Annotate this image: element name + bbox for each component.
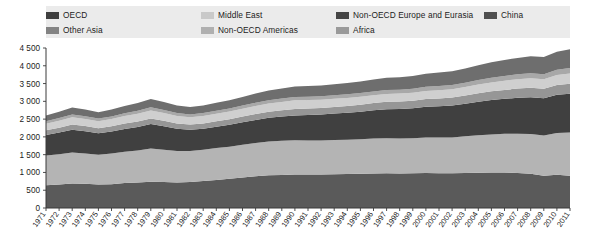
x-tick-label: 2006 xyxy=(489,210,506,229)
x-tick-label: 1978 xyxy=(122,210,139,229)
x-tick-label: 1979 xyxy=(135,210,152,229)
x-tick-label: 1975 xyxy=(83,210,100,229)
legend-item-other-asia[interactable]: Other Asia xyxy=(46,23,103,37)
legend-item-middle-east[interactable]: Middle East xyxy=(201,8,262,22)
legend-item-oecd[interactable]: OECD xyxy=(46,8,87,22)
legend-row-2: Other AsiaNon-OECD AmericasAfrica xyxy=(46,23,570,37)
legend-item-non-oecd-americas[interactable]: Non-OECD Americas xyxy=(201,23,298,37)
x-tick-label: 1988 xyxy=(253,210,270,229)
x-tick-label: 1991 xyxy=(293,210,310,229)
x-tick-label: 1982 xyxy=(175,210,192,229)
x-tick-label: 1984 xyxy=(201,210,218,229)
x-tick-label: 1996 xyxy=(358,210,375,229)
x-tick-label: 1977 xyxy=(109,210,126,229)
x-tick-label: 2010 xyxy=(541,210,558,229)
legend-label: Other Asia xyxy=(63,26,103,35)
x-tick-label: 1998 xyxy=(384,210,401,229)
x-tick-label: 2001 xyxy=(424,210,441,229)
x-tick-label: 1981 xyxy=(162,210,179,229)
legend-swatch-icon xyxy=(46,27,59,34)
x-tick-label: 1993 xyxy=(319,210,336,229)
x-tick-label: 2009 xyxy=(528,210,545,229)
x-tick-label: 1999 xyxy=(397,210,414,229)
x-tick-label: 1990 xyxy=(279,210,296,229)
x-tick-label: 1976 xyxy=(96,210,113,229)
x-tick-label: 1997 xyxy=(371,210,388,229)
legend-label: Non-OECD Americas xyxy=(218,26,298,35)
x-tick-label: 1980 xyxy=(148,210,165,229)
legend-swatch-icon xyxy=(46,12,59,19)
x-tick-label: 1973 xyxy=(57,210,74,229)
x-tick-label: 2004 xyxy=(463,210,480,229)
x-tick-label: 1985 xyxy=(214,210,231,229)
legend-swatch-icon xyxy=(201,12,214,19)
legend-label: Middle East xyxy=(218,11,262,20)
x-tick-labels: 1971197219731974197519761977197819791980… xyxy=(31,210,572,229)
legend-label: Non-OECD Europe and Eurasia xyxy=(353,11,473,20)
area-series-group xyxy=(46,49,570,208)
x-tick-label: 2003 xyxy=(450,210,467,229)
legend-label: OECD xyxy=(63,11,87,20)
x-tick-label: 1974 xyxy=(70,210,87,229)
x-tick-label: 2000 xyxy=(410,210,427,229)
y-tick-label: 2 000 xyxy=(20,133,41,142)
y-tick-label: 3 500 xyxy=(20,80,41,89)
y-tick-labels: 05001 0001 5002 0002 5003 0003 5004 0004… xyxy=(20,44,41,213)
legend-item-non-oecd-europe-and-eurasia[interactable]: Non-OECD Europe and Eurasia xyxy=(336,8,473,22)
legend-label: China xyxy=(501,11,523,20)
y-tick-label: 1 500 xyxy=(20,151,41,160)
x-tick-label: 1994 xyxy=(332,210,349,229)
x-tick-label: 1992 xyxy=(306,210,323,229)
legend-row-1: OECDMiddle EastNon-OECD Europe and Euras… xyxy=(46,8,570,22)
plot-area: 05001 0001 5002 0002 5003 0003 5004 0004… xyxy=(0,38,616,242)
x-tick-label: 1972 xyxy=(44,210,61,229)
legend-swatch-icon xyxy=(201,27,214,34)
chart-legend: OECDMiddle EastNon-OECD Europe and Euras… xyxy=(46,6,570,38)
x-tick-label: 2007 xyxy=(502,210,519,229)
x-tick-label: 2011 xyxy=(555,210,572,229)
legend-swatch-icon xyxy=(336,12,349,19)
legend-label: Africa xyxy=(353,26,375,35)
legend-swatch-icon xyxy=(484,12,497,19)
x-tick-label: 2005 xyxy=(476,210,493,229)
x-tick-label: 1995 xyxy=(345,210,362,229)
legend-swatch-icon xyxy=(336,27,349,34)
x-tick-label: 1987 xyxy=(240,210,257,229)
x-tick-label: 1989 xyxy=(266,210,283,229)
y-tick-label: 2 500 xyxy=(20,115,41,124)
x-tick-label: 2008 xyxy=(515,210,532,229)
x-tick-label: 2002 xyxy=(437,210,454,229)
x-tick-label: 1986 xyxy=(227,210,244,229)
legend-item-china[interactable]: China xyxy=(484,8,523,22)
y-tick-label: 4 500 xyxy=(20,44,41,53)
legend-item-africa[interactable]: Africa xyxy=(336,23,375,37)
chart-root: OECDMiddle EastNon-OECD Europe and Euras… xyxy=(0,0,616,242)
y-tick-label: 1 000 xyxy=(20,168,41,177)
x-tick-label: 1971 xyxy=(31,210,48,229)
stacked-area-chart: 05001 0001 5002 0002 5003 0003 5004 0004… xyxy=(0,38,616,242)
y-tick-label: 4 000 xyxy=(20,62,41,71)
x-tick-label: 1983 xyxy=(188,210,205,229)
y-tick-label: 500 xyxy=(26,186,40,195)
y-tick-label: 3 000 xyxy=(20,97,41,106)
